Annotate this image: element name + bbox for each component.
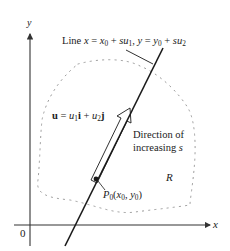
eq1-su: su	[119, 35, 128, 46]
vec-plus: +	[81, 110, 92, 121]
point-p0-label: P0(x0, y0)	[103, 190, 142, 201]
x-axis-label: x	[213, 219, 218, 230]
line-equation-label: Line x = x0 + su1, y = y0 + su2	[62, 36, 186, 47]
direction-line1: Direction of	[133, 128, 184, 141]
vec-j: j	[101, 110, 105, 121]
point-p0-dot	[94, 177, 99, 182]
line-label-leader	[126, 50, 153, 64]
origin-label: 0	[20, 228, 26, 239]
region-r-label: R	[166, 172, 173, 183]
p0-close: )	[139, 189, 143, 200]
y-axis-label: y	[27, 18, 31, 28]
direction-label: Direction of increasing s	[133, 128, 184, 154]
eq2-plus: +	[162, 35, 173, 46]
line-prefix: Line	[62, 35, 84, 46]
direction-line2-prefix: increasing	[133, 142, 179, 153]
eq2-su: su	[173, 35, 182, 46]
eq1-equals: =	[89, 35, 100, 46]
direction-line2: increasing s	[133, 141, 184, 154]
eq2-equals: =	[142, 35, 153, 46]
eq1-plus: +	[108, 35, 119, 46]
line-in-region-diagram: y x 0 Line x = x0 + su1, y = y0 + su2 u …	[0, 0, 230, 251]
vector-u-label: u = u1i + u2j	[52, 111, 104, 122]
eq2-su-sub: 2	[182, 39, 186, 48]
direction-s: s	[179, 142, 183, 153]
vec-equals: =	[58, 110, 69, 121]
